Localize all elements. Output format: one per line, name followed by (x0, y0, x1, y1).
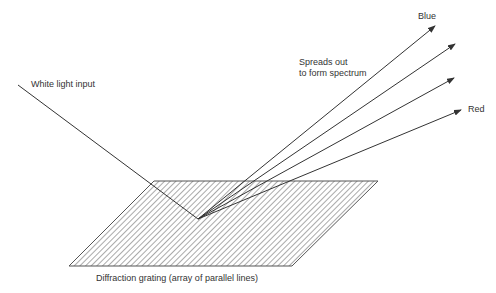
diagram-graphics (0, 0, 496, 293)
diffraction-grating (69, 181, 378, 266)
spread-label-line1: Spreads out (299, 57, 348, 68)
grating-label: Diffraction grating (array of parallel l… (96, 273, 258, 284)
input-label: White light input (31, 79, 95, 90)
input-ray (18, 85, 198, 219)
diffraction-diagram: White light input Spreads out to form sp… (0, 0, 496, 293)
spread-label-line2: to form spectrum (299, 68, 367, 79)
red-label: Red (468, 104, 485, 115)
blue-label: Blue (418, 11, 436, 22)
